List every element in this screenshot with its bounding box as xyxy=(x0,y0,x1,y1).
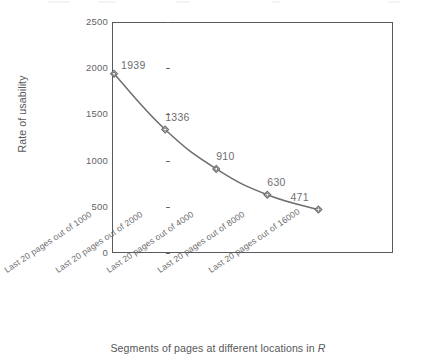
data-point-marker xyxy=(264,191,271,198)
data-point-value-label: 1939 xyxy=(121,60,146,71)
data-point-value-label: 630 xyxy=(267,177,285,188)
data-point-value-label: 471 xyxy=(290,192,308,203)
data-point-marker xyxy=(315,206,322,213)
x-axis-title-symbol: R xyxy=(318,342,326,354)
y-axis-title: Rate of usability xyxy=(16,54,28,174)
chart-container: 05001000150020002500 19391336910630471 L… xyxy=(0,0,436,364)
data-point-value-label: 1336 xyxy=(165,112,190,123)
x-axis-title: Segments of pages at different locations… xyxy=(0,342,436,354)
data-series-layer xyxy=(0,0,436,364)
series-line xyxy=(114,74,318,210)
x-axis-title-text: Segments of pages at different locations… xyxy=(110,342,317,354)
data-point-value-label: 910 xyxy=(216,151,234,162)
